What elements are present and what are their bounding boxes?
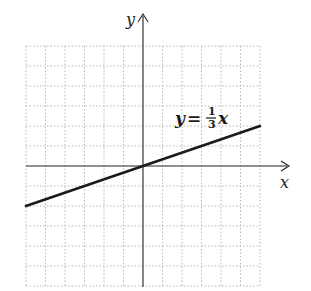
equation-equals: = bbox=[187, 108, 201, 128]
equation-var: x bbox=[217, 108, 229, 128]
y-axis-label: y bbox=[125, 10, 136, 29]
coordinate-plane: x y y = 1 3 x bbox=[0, 0, 311, 291]
x-axis-label: x bbox=[280, 173, 289, 192]
fraction-numerator: 1 bbox=[208, 105, 216, 118]
fraction-denominator: 3 bbox=[208, 118, 216, 131]
equation-lhs: y bbox=[174, 108, 186, 128]
